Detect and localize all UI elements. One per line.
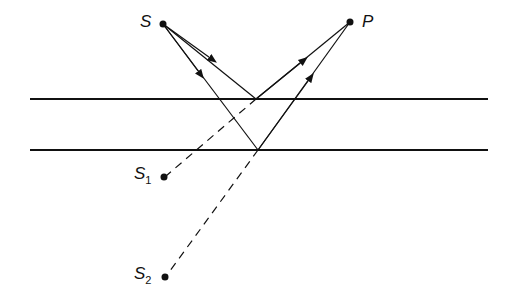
point-p	[347, 19, 354, 26]
label-s1-sub: 1	[145, 174, 151, 186]
label-s2: S2	[134, 264, 151, 284]
label-p: P	[362, 12, 373, 32]
diagram-canvas	[0, 0, 508, 298]
reflected-ray-1-arrow	[256, 60, 304, 99]
label-s1-main: S	[134, 164, 145, 183]
label-s2-sub: 2	[145, 274, 151, 286]
reflected-ray-2-arrow	[258, 77, 311, 150]
point-s	[160, 21, 167, 28]
film-surfaces	[30, 99, 488, 150]
label-s2-main: S	[134, 264, 145, 283]
incident-ray-1	[163, 24, 256, 99]
label-s1: S1	[134, 164, 151, 184]
virtual-ray-s1	[166, 99, 256, 176]
label-s: S	[140, 12, 151, 32]
point-s1	[161, 174, 168, 181]
point-s2	[162, 274, 169, 281]
virtual-ray-s2	[167, 150, 258, 275]
